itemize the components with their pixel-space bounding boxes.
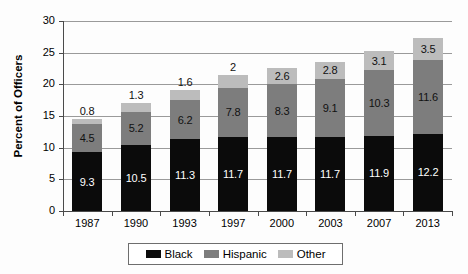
value-label-other-2013: 3.5 (413, 43, 443, 55)
bar-2003[interactable]: 11.79.12.8 (315, 62, 345, 211)
y-tick-mark (59, 179, 64, 180)
x-tick-mark (112, 211, 113, 216)
segment-other-1987[interactable] (72, 119, 102, 124)
x-tick-mark (306, 211, 307, 216)
bar-2007[interactable]: 11.910.33.1 (364, 51, 394, 211)
x-tick-label: 2013 (403, 217, 452, 229)
chart-legend: BlackHispanicOther (128, 243, 343, 265)
legend-item-hispanic[interactable]: Hispanic (204, 248, 267, 260)
value-label-hispanic-2000: 8.3 (267, 105, 297, 117)
y-tick-label: 20 (25, 78, 55, 89)
x-tick-label: 1993 (160, 217, 209, 229)
x-tick-mark (160, 211, 161, 216)
y-tick-label: 30 (25, 15, 55, 26)
segment-other-1997[interactable] (218, 75, 248, 88)
y-tick-mark (59, 148, 64, 149)
y-tick-label: 25 (25, 47, 55, 58)
value-label-other-1993: 1.6 (170, 76, 200, 88)
legend-swatch-icon (278, 250, 293, 258)
value-label-black-2003: 11.7 (315, 168, 345, 180)
value-label-hispanic-2003: 9.1 (315, 102, 345, 114)
legend-item-other[interactable]: Other (278, 248, 326, 260)
x-tick-label: 1997 (209, 217, 258, 229)
legend-swatch-icon (204, 250, 219, 258)
y-tick-label: 15 (25, 110, 55, 121)
x-tick-mark (452, 211, 453, 216)
gridline (63, 21, 452, 22)
legend-label: Other (297, 248, 326, 260)
x-tick-mark (209, 211, 210, 216)
bar-1993[interactable]: 11.36.21.6 (170, 90, 200, 211)
legend-label: Hispanic (223, 248, 267, 260)
value-label-hispanic-1990: 5.2 (121, 122, 151, 134)
value-label-hispanic-1987: 4.5 (72, 132, 102, 144)
x-tick-label: 2003 (306, 217, 355, 229)
value-label-other-2007: 3.1 (364, 55, 394, 67)
value-label-hispanic-2007: 10.3 (364, 97, 394, 109)
y-tick-label: 0 (25, 205, 55, 216)
value-label-other-2000: 2.6 (267, 70, 297, 82)
x-tick-label: 2007 (355, 217, 404, 229)
value-label-other-1990: 1.3 (121, 89, 151, 101)
bar-1987[interactable]: 9.34.50.8 (72, 119, 102, 211)
y-axis-title: Percent of Officers (12, 16, 24, 196)
value-label-black-1990: 10.5 (121, 172, 151, 184)
value-label-black-2000: 11.7 (267, 168, 297, 180)
value-label-black-1997: 11.7 (218, 168, 248, 180)
x-tick-mark (403, 211, 404, 216)
value-label-black-2013: 12.2 (413, 166, 443, 178)
legend-label: Black (165, 248, 193, 260)
value-label-black-1987: 9.3 (72, 176, 102, 188)
y-tick-mark (59, 84, 64, 85)
x-tick-label: 1987 (63, 217, 112, 229)
x-tick-label: 2000 (258, 217, 307, 229)
y-tick-mark (59, 116, 64, 117)
value-label-black-2007: 11.9 (364, 167, 394, 179)
y-tick-mark (59, 21, 64, 22)
value-label-hispanic-1997: 7.8 (218, 106, 248, 118)
stacked-bar-chart: Percent of Officers 051015202530 1987199… (0, 0, 468, 274)
x-tick-mark (63, 211, 64, 216)
legend-item-black[interactable]: Black (146, 248, 193, 260)
segment-other-1993[interactable] (170, 90, 200, 100)
bar-2000[interactable]: 11.78.32.6 (267, 68, 297, 211)
y-tick-mark (59, 53, 64, 54)
bar-1997[interactable]: 11.77.82 (218, 75, 248, 211)
x-tick-mark (258, 211, 259, 216)
value-label-other-1997: 2 (218, 61, 248, 73)
segment-other-1990[interactable] (121, 103, 151, 111)
x-tick-mark (355, 211, 356, 216)
y-tick-label: 5 (25, 173, 55, 184)
bar-1990[interactable]: 10.55.21.3 (121, 103, 151, 211)
x-tick-label: 1990 (112, 217, 161, 229)
legend-swatch-icon (146, 250, 161, 258)
bar-2013[interactable]: 12.211.63.5 (413, 38, 443, 211)
plot-area: 051015202530 198719901993199720002003200… (63, 21, 452, 212)
value-label-hispanic-2013: 11.6 (413, 91, 443, 103)
value-label-black-1993: 11.3 (170, 169, 200, 181)
value-label-other-2003: 2.8 (315, 64, 345, 76)
value-label-other-1987: 0.8 (72, 105, 102, 117)
value-label-hispanic-1993: 6.2 (170, 114, 200, 126)
y-tick-label: 10 (25, 142, 55, 153)
